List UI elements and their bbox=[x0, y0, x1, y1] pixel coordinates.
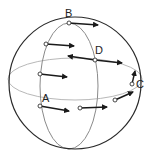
point-p1 bbox=[44, 42, 48, 46]
point-B bbox=[67, 21, 71, 25]
label-B: B bbox=[65, 7, 72, 19]
sphere-outline bbox=[9, 17, 141, 149]
point-p4 bbox=[113, 98, 117, 102]
label-C: C bbox=[136, 78, 144, 90]
label-D: D bbox=[95, 44, 103, 56]
point-C bbox=[130, 82, 134, 86]
label-A: A bbox=[42, 92, 50, 104]
equator-ellipse bbox=[8, 58, 142, 100]
point-A bbox=[38, 104, 42, 108]
point-p3 bbox=[78, 106, 82, 110]
sphere-diagram: B D A C bbox=[0, 0, 150, 156]
arrow-p3 bbox=[80, 107, 107, 108]
arrow-A bbox=[40, 106, 69, 111]
arrow-p2 bbox=[40, 74, 67, 77]
arrow-B bbox=[69, 23, 98, 25]
point-p2 bbox=[38, 72, 42, 76]
meridian-ellipse bbox=[40, 23, 98, 149]
arrow-p1 bbox=[46, 44, 74, 46]
point-D bbox=[93, 58, 97, 62]
